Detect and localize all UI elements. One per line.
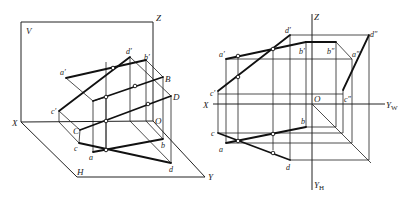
label-c1-left: c′	[51, 107, 57, 116]
label-a1-right: a′	[219, 50, 225, 59]
marker-h-2	[271, 132, 275, 136]
line-c1-d1	[59, 57, 130, 111]
label-d-right: d	[286, 163, 291, 172]
label-Z-left: Z	[156, 13, 162, 23]
label-b-left: b	[161, 141, 165, 150]
intersection-h	[104, 148, 108, 152]
marker-v-1	[236, 54, 240, 58]
line-c1-d1-right	[218, 35, 290, 91]
label-b1-right: b′	[299, 47, 305, 56]
label-O-right: O	[314, 94, 321, 104]
label-c-left: c	[74, 144, 78, 153]
label-Z-right: Z	[314, 12, 320, 22]
miter-line	[312, 104, 371, 163]
v-plane-frame	[21, 22, 153, 122]
label-O-left: O	[155, 116, 162, 126]
label-c1-right: c′	[210, 89, 216, 98]
label-b-right: b	[301, 117, 305, 126]
intersection-space-1	[133, 84, 137, 88]
label-YH: YH	[314, 180, 324, 192]
label-a-left: a	[89, 153, 93, 162]
line-a-b	[93, 139, 163, 152]
label-a2-right: a″	[352, 50, 360, 59]
line-c2-d2-right	[343, 35, 369, 90]
label-d-left: d	[169, 165, 174, 174]
marker-h-1	[236, 139, 240, 143]
label-c-right: c	[211, 129, 215, 138]
label-B: B	[165, 74, 171, 84]
label-d2-right: d″	[370, 30, 378, 39]
left-axonometric-view: V Z X O H Y a′ d′ b′ c′ B D C c a b d	[11, 13, 214, 182]
label-V: V	[26, 26, 33, 36]
label-b2-right: b″	[327, 47, 335, 56]
label-c2-right: c″	[344, 95, 352, 104]
intersection-v	[111, 66, 115, 70]
intersection-x-axis	[104, 119, 108, 123]
marker-v-2	[271, 47, 275, 51]
label-d1-right: d′	[285, 26, 291, 35]
intersection-a-point	[104, 95, 108, 99]
x-axis-left	[21, 121, 153, 122]
label-H: H	[76, 167, 84, 177]
label-b1-left: b′	[144, 53, 150, 62]
label-D: D	[172, 92, 180, 102]
label-a1-left: a′	[60, 68, 66, 77]
label-X-right: X	[202, 100, 209, 110]
label-C: C	[73, 126, 80, 136]
right-orthographic-view: Z X O YW YH a′ d′ b′ c′ b″ a″ d″ c″ c a …	[202, 12, 398, 192]
intersection-space-2	[146, 102, 150, 106]
label-X-left: X	[11, 118, 18, 128]
label-Y-left: Y	[208, 172, 214, 182]
marker-v-3	[236, 75, 240, 79]
projection-diagram: V Z X O H Y a′ d′ b′ c′ B D C c a b d	[0, 0, 405, 201]
label-d1-left: d′	[126, 47, 132, 56]
marker-h-3	[271, 151, 275, 155]
label-YW: YW	[386, 100, 398, 112]
label-a-right: a	[219, 145, 223, 154]
